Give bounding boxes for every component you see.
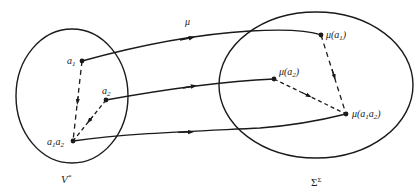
point-mu-a1a2 <box>344 112 349 117</box>
monoid-homomorphism-diagram: μ a1 a2 a1a2 μ(a1) μ(a2) μ(a1a2) V* ΣΣ <box>0 0 416 196</box>
point-a1a2 <box>71 139 76 144</box>
label-a1: a1 <box>67 55 76 68</box>
point-a1 <box>80 59 85 64</box>
compose-arrow-mu-a2 <box>302 93 309 97</box>
compose-arrow-a2 <box>89 116 93 121</box>
mapping-a2-to-mu-a2 <box>106 79 274 100</box>
label-mu-a1a2: μ(a1a2) <box>351 108 381 121</box>
label-mu-a2: μ(a2) <box>278 66 300 79</box>
point-mu-a1 <box>319 33 324 38</box>
compose-mu-a2-to-mu-a1a2 <box>274 79 346 114</box>
point-mu-a2 <box>272 77 277 82</box>
compose-arrow-a1 <box>78 96 79 102</box>
label-a2: a2 <box>102 85 111 98</box>
label-mu-a1: μ(a1) <box>325 29 347 42</box>
mapping-a1a2-to-mu-a1a2 <box>73 114 346 141</box>
map-label-mu: μ <box>184 16 190 27</box>
point-a2 <box>104 98 109 103</box>
set-label-v-star: V* <box>61 173 72 185</box>
label-a1a2: a1a2 <box>47 136 65 149</box>
set-label-sigma-sigma: ΣΣ <box>311 176 321 188</box>
